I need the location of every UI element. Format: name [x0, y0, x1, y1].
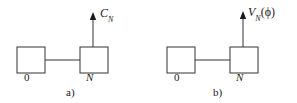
diagram-panel-b: 0 N VN(ϕ) b) [149, 0, 297, 103]
output-arrow-label-a: CN [100, 7, 113, 22]
output-label-subscript-a: N [108, 15, 113, 24]
output-arrow-head-a [90, 12, 96, 20]
node-box-0-b [167, 47, 195, 73]
output-arrow-label-b: VN(ϕ) [248, 6, 275, 21]
node-box-n-b [230, 47, 258, 73]
node-box-n-a [80, 47, 108, 73]
panel-caption-a: a) [66, 87, 75, 98]
panel-caption-b: b) [213, 87, 222, 98]
node-label-n-a: N [86, 72, 93, 83]
diagram-panel-a: 0 N CN a) [0, 0, 148, 103]
output-label-subscript-b: N [255, 14, 260, 23]
output-arrow-head-b [240, 11, 246, 19]
output-label-argument-b: (ϕ) [261, 5, 275, 19]
node-label-0-b: 0 [174, 72, 180, 83]
output-label-base-a: C [100, 6, 108, 20]
node-label-0-a: 0 [24, 72, 30, 83]
node-box-0-a [17, 47, 45, 73]
node-label-n-b: N [236, 72, 243, 83]
figure-container: 0 N CN a) 0 N VN(ϕ) b) [0, 0, 297, 103]
